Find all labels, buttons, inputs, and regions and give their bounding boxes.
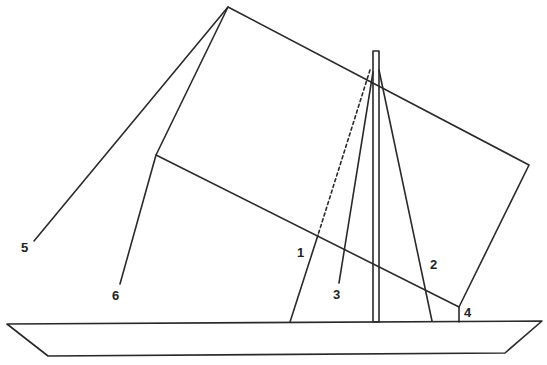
mast xyxy=(373,51,379,322)
label-5: 5 xyxy=(21,241,28,254)
hull xyxy=(7,321,542,356)
label-1: 1 xyxy=(297,246,304,259)
rope-3 xyxy=(339,72,373,283)
label-3: 3 xyxy=(333,288,340,301)
rope-6 xyxy=(120,155,156,284)
rope-2 xyxy=(379,70,432,321)
label-4: 4 xyxy=(464,306,471,319)
rope-5 xyxy=(34,7,228,241)
rope-1-dashed xyxy=(318,70,370,235)
label-2: 2 xyxy=(430,258,437,271)
label-6: 6 xyxy=(112,289,119,302)
